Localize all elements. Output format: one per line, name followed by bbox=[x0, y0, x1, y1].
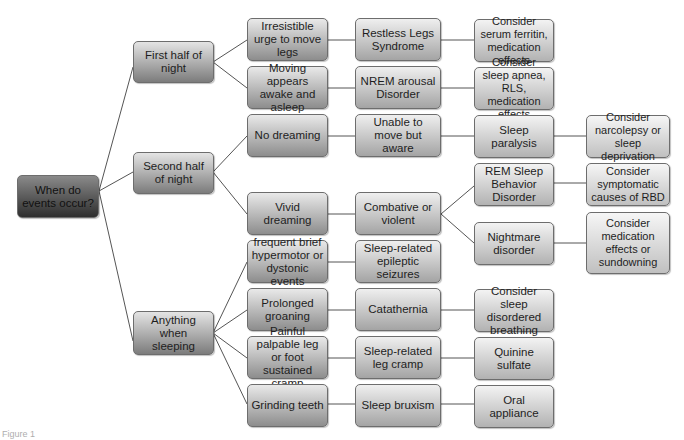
node-anything-when-sleeping: Anything when sleeping bbox=[133, 311, 214, 355]
connector-lines bbox=[0, 0, 684, 440]
node-grinding-teeth: Grinding teeth bbox=[247, 384, 328, 427]
node-second-half-of-night: Second half of night bbox=[133, 152, 214, 194]
node-nrem-arousal-disorder: NREM arousal Disorder bbox=[355, 66, 441, 109]
node-moving-appears-awake: Moving appears awake and asleep bbox=[247, 66, 328, 109]
node-unable-to-move: Unable to move but aware bbox=[355, 114, 441, 157]
node-sleep-bruxism: Sleep bruxism bbox=[355, 384, 441, 427]
node-sleep-paralysis: Sleep paralysis bbox=[474, 115, 554, 158]
node-painful-cramp: Painful palpable leg or foot sustained c… bbox=[247, 336, 328, 379]
node-sleep-related-leg-cramp: Sleep-related leg cramp bbox=[355, 336, 441, 379]
node-consider-medication-effects: Consider medication effects or sundownin… bbox=[586, 212, 670, 274]
node-catathrenia: Catathernia bbox=[355, 288, 441, 331]
node-quinine-sulfate: Quinine sulfate bbox=[474, 337, 554, 380]
node-oral-appliance: Oral appliance bbox=[474, 385, 554, 428]
node-consider-narcolepsy: Consider narcolepsy or sleep deprivation bbox=[586, 115, 670, 158]
sleep-events-flowchart: When do events occur? First half of nigh… bbox=[0, 0, 684, 440]
node-nightmare-disorder: Nightmare disorder bbox=[474, 222, 554, 265]
node-first-half-of-night: First half of night bbox=[133, 41, 214, 83]
node-epileptic-seizures: Sleep-related epileptic seizures bbox=[355, 240, 441, 283]
node-consider-sleep-disordered-breathing: Consider sleep disordered breathing bbox=[474, 289, 554, 332]
node-no-dreaming: No dreaming bbox=[247, 114, 328, 157]
node-irresistible-urge: Irresistible urge to move legs bbox=[247, 18, 328, 61]
root-node: When do events occur? bbox=[17, 175, 99, 218]
node-combative-or-violent: Combative or violent bbox=[355, 192, 441, 235]
node-restless-legs-syndrome: Restless Legs Syndrome bbox=[355, 18, 441, 61]
node-consider-symptomatic-causes: Consider symptomatic causes of RBD bbox=[586, 163, 670, 206]
node-rem-sleep-behavior-disorder: REM Sleep Behavior Disorder bbox=[474, 163, 554, 206]
node-vivid-dreaming: Vivid dreaming bbox=[247, 192, 328, 235]
node-hypermotor-events: frequent brief hypermotor or dystonic ev… bbox=[247, 240, 328, 283]
figure-caption: Figure 1 bbox=[2, 429, 35, 439]
node-consider-sleep-apnea: Consider sleep apnea, RLS, medication ef… bbox=[474, 67, 554, 110]
